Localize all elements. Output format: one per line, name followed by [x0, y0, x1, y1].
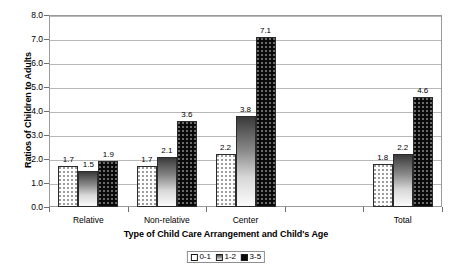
bar — [236, 116, 256, 207]
x-axis-tick-mark — [285, 207, 286, 212]
bar — [256, 37, 276, 207]
legend-item[interactable]: 3-5 — [241, 253, 261, 261]
x-axis-category-label: Center — [206, 215, 285, 225]
y-axis-tick-label: 2.0 — [10, 155, 43, 164]
y-axis-tick-label: 7.0 — [10, 35, 43, 44]
legend-item[interactable]: 0-1 — [191, 253, 211, 261]
y-axis-tick-label: 3.0 — [10, 131, 43, 140]
bar-value-label: 3.6 — [173, 111, 201, 119]
y-axis-tick-label: 0.0 — [10, 203, 43, 212]
y-axis-tick-label: 6.0 — [10, 59, 43, 68]
bar — [413, 97, 433, 207]
bar — [98, 161, 118, 207]
x-axis-tick-mark — [49, 207, 50, 212]
bar — [78, 171, 98, 207]
x-axis-title: Type of Child Care Arrangement and Child… — [0, 229, 452, 239]
x-axis-category-label: Relative — [49, 215, 128, 225]
bar — [157, 157, 177, 207]
bar — [393, 154, 413, 207]
legend-item[interactable]: 1-2 — [216, 253, 236, 261]
legend-label: 3-5 — [250, 253, 262, 261]
bar-value-label: 1.9 — [94, 151, 122, 159]
legend-swatch-icon — [241, 254, 248, 261]
y-axis-tick-label: 1.0 — [10, 179, 43, 188]
y-axis-tick-label: 5.0 — [10, 83, 43, 92]
legend-swatch-icon — [191, 254, 198, 261]
bar — [373, 164, 393, 207]
bars-layer: 1.71.51.91.72.13.62.23.87.11.82.24.6 — [49, 15, 442, 207]
bar-chart: Ratios of Children to Adults 0.01.02.03.… — [0, 0, 452, 269]
x-axis-tick-mark — [206, 207, 207, 212]
legend-label: 0-1 — [199, 253, 211, 261]
bar-value-label: 4.6 — [409, 87, 437, 95]
y-axis-tick-label: 8.0 — [10, 11, 43, 20]
bar — [216, 154, 236, 207]
legend-swatch-icon — [216, 254, 223, 261]
y-axis-tick-label: 4.0 — [10, 107, 43, 116]
x-axis-tick-mark — [363, 207, 364, 212]
chart-legend: 0-11-23-5 — [187, 251, 265, 263]
x-axis-category-label: Non-relative — [128, 215, 207, 225]
x-axis-category-label: Total — [363, 215, 442, 225]
bar — [58, 166, 78, 207]
legend-label: 1-2 — [224, 253, 236, 261]
bar — [177, 121, 197, 207]
bar — [137, 166, 157, 207]
x-axis-tick-mark — [442, 207, 443, 212]
x-axis-tick-mark — [128, 207, 129, 212]
bar-value-label: 7.1 — [252, 27, 280, 35]
